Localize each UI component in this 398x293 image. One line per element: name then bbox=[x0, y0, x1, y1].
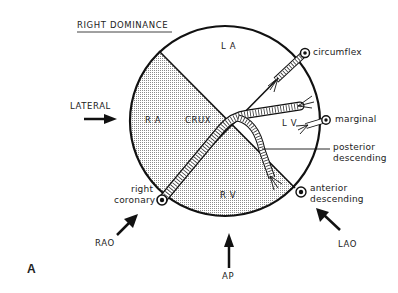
marginal-artery bbox=[296, 116, 330, 134]
label-right-ventricle: R V bbox=[220, 190, 236, 200]
circumflex-artery bbox=[268, 49, 310, 93]
right-coronary-ostium bbox=[157, 195, 167, 205]
ap-arrow-icon bbox=[224, 233, 234, 268]
label-right-atrium: R A bbox=[145, 115, 161, 125]
label-posterior-descending-2: descending bbox=[333, 153, 387, 163]
label-circumflex: circumflex bbox=[313, 47, 362, 57]
rao-arrow-icon bbox=[117, 214, 138, 235]
label-anterior-descending-2: descending bbox=[310, 194, 364, 204]
label-right-coronary-2: coronary bbox=[114, 195, 155, 205]
label-left-atrium: L A bbox=[221, 41, 236, 51]
label-left-ventricle: L V bbox=[282, 118, 297, 128]
anterior-descending-ostium bbox=[296, 187, 306, 197]
label-right-coronary-1: right bbox=[131, 184, 153, 194]
diagram-title: RIGHT DOMINANCE bbox=[77, 20, 168, 30]
coronary-dominance-diagram: RIGHT DOMINANCE L A R A CRUX L V R V cir… bbox=[0, 0, 398, 293]
label-lao-view: LAO bbox=[338, 239, 357, 249]
label-rao-view: RAO bbox=[95, 238, 115, 248]
lateral-arrow-icon bbox=[84, 114, 117, 124]
label-marginal: marginal bbox=[335, 114, 376, 124]
label-lateral-view: LATERAL bbox=[70, 101, 111, 111]
label-crux: CRUX bbox=[185, 115, 211, 125]
lao-arrow-icon bbox=[316, 208, 340, 230]
label-posterior-descending-1: posterior bbox=[333, 142, 375, 152]
label-ap-view: AP bbox=[222, 271, 234, 281]
figure-label: A bbox=[27, 264, 36, 274]
label-anterior-descending-1: anterior bbox=[310, 183, 347, 193]
